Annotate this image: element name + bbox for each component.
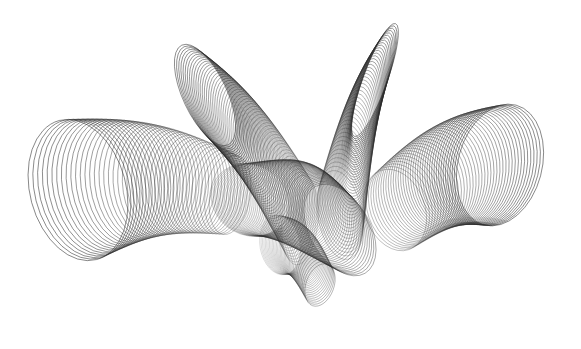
generative-line-art [0,0,581,349]
ellipse-stroke [51,111,160,257]
center-mesh [198,150,391,289]
tall-right-petal [311,20,407,264]
left-wing [13,108,257,272]
ellipse-stroke [125,125,194,236]
right-wing [352,94,556,259]
